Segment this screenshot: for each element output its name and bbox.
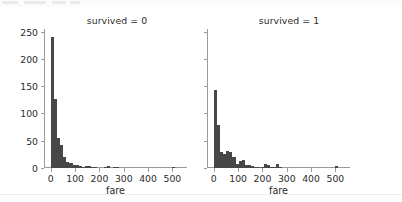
x-axis-tick-label: 300	[115, 173, 133, 184]
figure-root: survived = 0 050100150200250 01002003004…	[0, 0, 402, 202]
y-axis-tick-label: 50	[26, 135, 38, 146]
x-axis-tick-label: 400	[139, 173, 157, 184]
toolbar-blip	[70, 1, 80, 4]
histogram-bars-survived-1	[207, 29, 350, 168]
y-axis-tick	[204, 86, 208, 87]
x-axis-tick-label: 200	[254, 173, 272, 184]
x-axis-tick-label: 400	[302, 173, 320, 184]
x-axis-tick	[148, 168, 149, 172]
x-axis-tick-label: 500	[164, 173, 182, 184]
x-axis-tick-label: 100	[229, 173, 247, 184]
x-axis-tick-label: 0	[48, 173, 54, 184]
toolbar-remnant-strip	[0, 0, 402, 7]
facetgrid-figure: survived = 0 050100150200250 01002003004…	[0, 7, 402, 194]
x-axis-tick	[335, 168, 336, 172]
y-axis-tick	[41, 32, 45, 33]
x-axis-tick	[287, 168, 288, 172]
facet-panel-survived-1: survived = 1 0100200300400500 fare	[198, 7, 402, 194]
x-axis-tick	[262, 168, 263, 172]
y-axis-tick	[204, 141, 208, 142]
y-axis-tick-label: 200	[20, 53, 38, 64]
x-axis-tick-label: 300	[278, 173, 296, 184]
y-axis-tick	[41, 113, 45, 114]
y-axis-tick	[41, 59, 45, 60]
x-axis-tick-label: 200	[91, 173, 109, 184]
x-axis-tick	[214, 168, 215, 172]
y-axis-tick	[41, 86, 45, 87]
y-axis-tick	[204, 168, 208, 169]
y-axis-tick-label: 250	[20, 26, 38, 37]
y-axis-tick	[204, 59, 208, 60]
axes-survived-1: 0100200300400500 fare	[207, 29, 350, 168]
y-axis-tick-label: 100	[20, 108, 38, 119]
toolbar-blip	[52, 1, 66, 4]
y-axis-tick	[204, 32, 208, 33]
histogram-bar	[279, 167, 282, 168]
histogram-bars-survived-0	[44, 29, 187, 168]
toolbar-blip	[2, 1, 18, 4]
x-axis-tick-label: 0	[211, 173, 217, 184]
x-axis-tick-label: 100	[66, 173, 84, 184]
x-axis-tick	[311, 168, 312, 172]
x-axis-tick	[99, 168, 100, 172]
y-axis-tick	[204, 113, 208, 114]
bottom-divider	[0, 194, 402, 195]
toolbar-blip	[24, 1, 46, 4]
histogram-bar	[116, 167, 119, 168]
x-axis-tick	[51, 168, 52, 172]
x-axis-tick	[238, 168, 239, 172]
x-axis-tick-label: 500	[327, 173, 345, 184]
facet-panel-survived-0: survived = 0 050100150200250 01002003004…	[0, 7, 198, 194]
x-axis-tick	[75, 168, 76, 172]
y-axis-tick	[41, 141, 45, 142]
histogram-bar	[94, 167, 97, 168]
axes-survived-0: 050100150200250 0100200300400500 fare	[44, 29, 187, 168]
x-axis-tick	[172, 168, 173, 172]
panel-title-survived-0: survived = 0	[0, 15, 198, 26]
y-axis-tick	[41, 168, 45, 169]
x-axis-tick	[124, 168, 125, 172]
y-axis-tick-label: 0	[32, 163, 38, 174]
histogram-bar	[107, 166, 110, 168]
y-axis-tick-label: 150	[20, 81, 38, 92]
panel-title-survived-1: survived = 1	[198, 15, 402, 26]
